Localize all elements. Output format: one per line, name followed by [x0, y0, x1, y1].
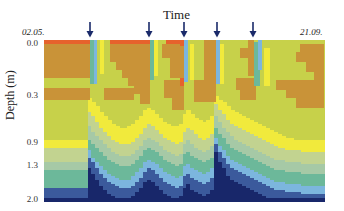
block-brown [236, 78, 256, 90]
down-arrow-icon [249, 22, 257, 38]
down-arrow-icon [213, 22, 221, 38]
block-brown [140, 94, 150, 104]
chart-title: Time [163, 7, 190, 23]
block-brown [194, 80, 216, 102]
block-brown [172, 98, 184, 110]
layer-lightblue [321, 186, 325, 194]
block-brown [170, 58, 184, 78]
block-yellow [220, 44, 224, 84]
block-brown [306, 62, 324, 72]
block-brown [64, 70, 90, 78]
y-tick-2: 0.9 [10, 137, 38, 147]
block-brown [162, 44, 184, 58]
block-brown [240, 90, 256, 100]
layer-teal [321, 174, 325, 186]
depth-time-heatmap [44, 40, 325, 202]
down-arrow-icon [145, 22, 153, 38]
block-brown [116, 62, 150, 70]
block-lightblue [258, 40, 262, 70]
y-tick-0: 0.0 [10, 38, 38, 48]
y-tick-3: 1.3 [10, 160, 38, 170]
block-yellow [100, 40, 104, 74]
block-lightblue [184, 40, 188, 82]
y-tick-4: 2.0 [10, 194, 38, 204]
down-arrow-icon [180, 22, 188, 38]
start-date-label: 02.05. [22, 27, 45, 37]
layer-pale [321, 152, 325, 164]
end-date-label: 21.09. [300, 27, 323, 37]
block-yellow [190, 44, 194, 80]
block-brown [128, 78, 150, 86]
block-brown [300, 44, 324, 52]
block-brown [104, 88, 134, 100]
block-brown [122, 70, 150, 78]
layer-yellow [321, 140, 325, 152]
block-lightblue [94, 40, 97, 84]
block-brown [44, 88, 90, 100]
block-yellow [154, 40, 158, 76]
block-brown [314, 72, 324, 108]
y-tick-1: 0.3 [10, 90, 38, 100]
layer-greygreen [321, 164, 325, 174]
block-yellow [264, 48, 270, 86]
block-brown [110, 44, 150, 62]
block-brown [296, 52, 324, 62]
down-arrow-icon [86, 22, 94, 38]
layer-navy-base [321, 198, 325, 202]
block-brown [134, 86, 150, 94]
